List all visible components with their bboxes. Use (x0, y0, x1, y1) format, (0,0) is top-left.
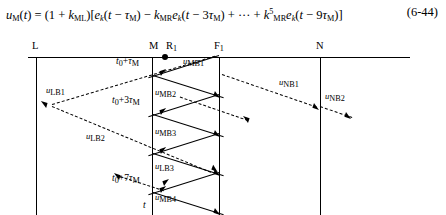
ray-LB2 (52, 106, 211, 173)
figure-canvas: uM(t) = (1 + kML)[ek(t − τM) − kMRek(t −… (0, 0, 446, 215)
arrowhead-LB1 (39, 101, 47, 108)
time-axis-label: t (143, 200, 146, 210)
wave-label-uLB3: uLB3 (155, 162, 174, 173)
axis-label-F1: F1 (214, 40, 224, 54)
time-label-t0-plus-tauM: t0+τM (116, 56, 139, 69)
time-label-t0-plus-3tauM: t0+3τM (112, 95, 140, 108)
time-line-L (36, 57, 37, 215)
axis-label-M: M (149, 40, 158, 51)
time-line-N (320, 57, 321, 215)
arrowhead-LB3-b (162, 179, 170, 186)
equation-6-44: uM(t) = (1 + kML)[ek(t − τM) − kMRek(t −… (6, 2, 343, 29)
wave-label-uNB1: uNB1 (279, 78, 299, 89)
wave-label-uMB1: uMB1 (183, 57, 204, 68)
wave-label-uMB3: uMB3 (155, 127, 176, 138)
ray-F1-to-M-4 (149, 172, 219, 195)
arrowhead-N-reflect (241, 116, 249, 123)
ray-NB1 (222, 74, 317, 108)
axis-label-R1: R1 (166, 40, 177, 54)
wave-label-uLB2: uLB2 (86, 132, 105, 143)
wave-label-uLB1: uLB1 (46, 86, 65, 97)
equation-row: uM(t) = (1 + kML)[ek(t − τM) − kMRek(t −… (0, 2, 446, 24)
axis-label-N: N (316, 40, 324, 51)
equation-number: (6-44) (407, 2, 438, 22)
arrowhead-MB4-out (213, 208, 221, 215)
wave-label-uMB2: uMB2 (155, 88, 176, 99)
time-label-t0-plus-7tauM: t0+7τM (112, 173, 140, 186)
lattice-diagram: L M R1 F1 N (0, 28, 446, 215)
axis-label-L: L (32, 40, 38, 51)
node-dot-M (162, 54, 168, 60)
wave-label-uNB2: uNB2 (325, 92, 345, 103)
ray-N-reflect (180, 97, 248, 121)
arrowhead-return-2 (159, 108, 167, 115)
wave-label-uMB4: uMB4 (155, 193, 176, 204)
